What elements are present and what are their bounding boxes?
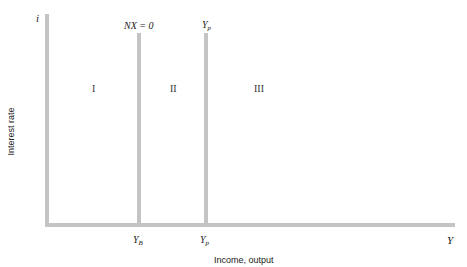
region-label-1: I [92,84,95,94]
nx-zero-line [137,33,141,223]
y-axis-symbol: i [36,13,39,24]
nx-zero-label: NX = 0 [124,21,154,31]
yb-sub: B [139,239,143,247]
x-axis-line [45,223,455,227]
region-label-2: II [170,84,177,94]
x-axis-label: Income, output [214,256,274,265]
yb-tick-label: YB [133,235,143,247]
x-axis-symbol: Y [447,235,453,246]
y-axis-label: Interest rate [7,107,16,155]
yp-tick-label: Yp [200,235,209,247]
potential-output-line [204,33,208,223]
region-label-3: III [254,84,264,94]
y-axis-line [45,14,49,227]
yp-bottom-sub: p [206,239,210,247]
nx-zero-label-text: NX = 0 [124,20,154,31]
yp-top-label: Yp [202,20,211,32]
yp-top-sub: p [208,24,212,32]
